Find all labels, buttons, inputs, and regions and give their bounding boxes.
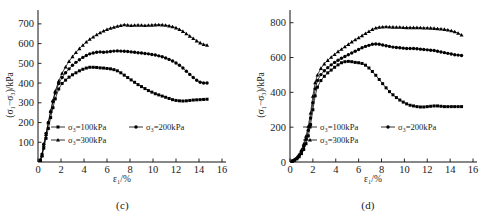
chart-d-y-axis-title: (σ₁−σ₃)/kPa (256, 72, 267, 118)
data-point-square (337, 63, 340, 66)
data-point-circle (453, 53, 456, 56)
data-point-square (137, 83, 140, 86)
series-line (292, 44, 461, 161)
legend-entry: σ₃=300kPa (51, 135, 106, 145)
data-point-circle (381, 43, 384, 46)
data-point-square (319, 79, 322, 82)
data-point-square (433, 104, 436, 107)
data-point-square (178, 99, 181, 102)
data-point-circle (164, 56, 167, 59)
data-point-square (371, 70, 374, 73)
data-point-circle (192, 76, 195, 79)
data-point-triangle (98, 31, 102, 35)
data-point-circle (136, 51, 139, 54)
data-point-triangle (64, 65, 68, 69)
chart-panel-d: 02468101214160200400600800 σ₃=100kPaσ₃=2… (245, 0, 491, 213)
data-point-circle (347, 53, 350, 56)
y-axis-tick-label: 0 (281, 157, 286, 168)
data-point-circle (456, 53, 459, 56)
y-axis-tick-label: 100 (18, 137, 34, 148)
y-axis-tick-label: 300 (18, 97, 34, 108)
data-point-circle (388, 45, 391, 48)
data-point-circle (319, 73, 322, 76)
data-point-circle (340, 57, 343, 60)
data-point-circle (371, 43, 374, 46)
data-point-square (378, 78, 381, 81)
data-point-square (68, 76, 71, 79)
data-point-triangle (367, 29, 371, 33)
data-point-square (185, 99, 188, 102)
data-point-circle (360, 46, 363, 49)
data-point-circle (140, 51, 143, 54)
data-point-circle (398, 46, 401, 49)
data-point-square (381, 82, 384, 85)
data-point-square (126, 76, 129, 79)
chart-c-x-axis-title: ε₁/% (113, 174, 131, 184)
data-point-circle (202, 81, 205, 84)
data-point-square (181, 100, 184, 103)
chart-d-x-axis-title: ε₁/% (364, 174, 382, 184)
series-2 (39, 49, 209, 162)
x-axis-tick-label: 0 (35, 164, 40, 175)
legend-marker (381, 125, 395, 128)
data-point-circle (333, 61, 336, 64)
y-axis-tick-label: 700 (18, 18, 34, 29)
data-point-circle (343, 55, 346, 58)
data-point-circle (129, 50, 132, 53)
data-point-circle (102, 51, 105, 54)
data-point-square (429, 105, 432, 108)
data-point-square (88, 66, 91, 69)
data-point-circle (116, 49, 119, 52)
data-point-circle (157, 54, 160, 57)
data-point-triangle (339, 47, 343, 51)
y-axis-tick-label: 800 (270, 17, 286, 28)
data-point-square (99, 66, 102, 69)
data-point-square (436, 104, 439, 107)
data-point-triangle (195, 39, 199, 43)
chart-c-series (38, 23, 209, 162)
data-point-circle (64, 71, 67, 74)
data-point-square (460, 105, 463, 108)
y-axis-tick-label: 600 (270, 52, 286, 63)
data-point-square (150, 91, 153, 94)
data-point-triangle (336, 50, 340, 54)
data-point-square (168, 97, 171, 100)
data-point-circle (88, 52, 91, 55)
data-point-circle (329, 63, 332, 66)
data-point-triangle (350, 40, 354, 44)
data-point-circle (323, 69, 326, 72)
data-point-circle (167, 58, 170, 61)
y-axis-tick-label: 600 (18, 38, 34, 49)
legend-entry: σ₃=200kPa (129, 122, 184, 132)
data-point-circle (134, 125, 137, 128)
series-line (40, 25, 207, 161)
chart-c-axes: 0246810121416100200300400500600700 (18, 10, 227, 175)
data-point-circle (105, 50, 108, 53)
y-axis-tick-label: 400 (18, 78, 34, 89)
data-point-square (116, 69, 119, 72)
data-point-square (439, 105, 442, 108)
legend-marker (51, 138, 65, 142)
data-point-circle (205, 81, 208, 84)
data-point-square (202, 98, 205, 101)
legend-label: σ₃=100kPa (320, 122, 358, 132)
chart-d-legend: σ₃=100kPaσ₃=200kPaσ₃=300kPa (303, 122, 436, 145)
data-point-triangle (181, 29, 185, 33)
data-point-triangle (60, 71, 64, 75)
chart-panel-c: 0246810121416100200300400500600700 σ₃=10… (0, 0, 245, 213)
data-point-circle (123, 50, 126, 53)
data-point-circle (429, 49, 432, 52)
data-point-square (405, 102, 408, 105)
y-axis-tick-label: 500 (18, 58, 34, 69)
data-point-circle (446, 52, 449, 55)
data-point-square (343, 60, 346, 63)
data-point-square (81, 68, 84, 71)
data-point-square (450, 105, 453, 108)
data-point-square (426, 105, 429, 108)
x-axis-tick-label: 6 (104, 164, 109, 175)
data-point-triangle (102, 29, 106, 33)
series-1 (39, 66, 209, 162)
x-axis-tick-label: 16 (217, 164, 228, 175)
legend-entry: σ₃=200kPa (381, 122, 436, 132)
legend-label: σ₃=200kPa (146, 122, 184, 132)
